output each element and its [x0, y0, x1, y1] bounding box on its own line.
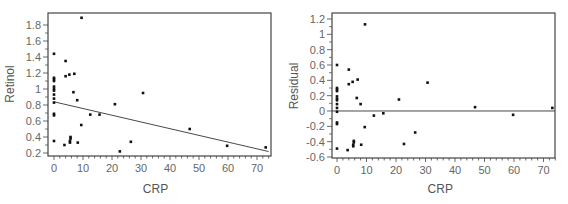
data-point	[69, 136, 72, 139]
x-tick-label: 40	[449, 164, 461, 176]
data-point	[336, 107, 339, 110]
data-point	[64, 75, 67, 78]
data-point	[73, 73, 76, 76]
x-tick-label: 50	[478, 164, 490, 176]
plot-frame	[332, 13, 555, 158]
data-point	[53, 89, 56, 92]
data-point	[76, 141, 79, 144]
y-tick-label: 0.6	[26, 115, 41, 127]
data-point	[356, 78, 359, 81]
y-tick-label: 1.6	[26, 35, 41, 47]
y-tick-label: 1.4	[26, 51, 41, 63]
data-point	[53, 140, 56, 143]
y-tick-label: 1	[319, 28, 325, 40]
data-point	[53, 97, 56, 100]
data-point	[72, 91, 75, 94]
x-tick-label: 60	[508, 164, 520, 176]
x-tick-label: 10	[360, 164, 372, 176]
data-point	[80, 124, 83, 127]
x-tick-label: 40	[164, 162, 176, 174]
x-tick-label: 30	[419, 164, 431, 176]
data-point	[551, 107, 554, 110]
data-point	[69, 140, 72, 143]
data-point	[414, 131, 417, 134]
data-point	[119, 150, 122, 153]
data-point	[398, 98, 401, 101]
data-point	[352, 143, 355, 146]
x-tick-label: 60	[222, 162, 234, 174]
y-tick-label: 1	[35, 83, 41, 95]
data-point	[336, 110, 339, 113]
data-point	[68, 73, 71, 76]
data-point	[346, 149, 349, 152]
data-point	[348, 68, 351, 71]
x-tick-label: 0	[51, 162, 57, 174]
data-point	[98, 113, 101, 116]
x-axis-title: CRP	[143, 182, 168, 196]
y-tick-label: 1.8	[26, 19, 41, 31]
y-tick-label: 1.2	[310, 13, 325, 25]
y-axis-title: Retinol	[3, 65, 17, 102]
y-tick-label: 0.2	[26, 147, 41, 159]
residual-vs-crp-scatter: 010203040506070-0.6-0.4-0.200.20.40.60.8…	[287, 13, 555, 196]
data-point	[426, 81, 429, 84]
data-point	[363, 126, 366, 129]
x-tick-label: 10	[77, 162, 89, 174]
regression-line	[54, 102, 269, 152]
y-tick-label: 1.2	[26, 67, 41, 79]
data-point	[474, 106, 477, 109]
x-tick-label: 20	[390, 164, 402, 176]
data-point	[53, 93, 56, 96]
data-point	[403, 143, 406, 146]
data-point	[373, 114, 376, 117]
y-tick-label: 0.4	[26, 131, 41, 143]
data-point	[382, 112, 385, 115]
x-tick-label: 20	[106, 162, 118, 174]
x-tick-label: 70	[251, 162, 263, 174]
data-point	[63, 144, 66, 147]
y-tick-label: 0.4	[310, 74, 325, 86]
x-tick-label: 0	[334, 164, 340, 176]
data-point	[114, 103, 117, 106]
y-tick-label: 0	[319, 105, 325, 117]
data-point	[336, 103, 339, 106]
x-axis-title: CRP	[428, 182, 453, 196]
data-point	[336, 90, 339, 93]
data-point	[512, 114, 515, 117]
data-point	[89, 113, 92, 116]
y-tick-label: -0.4	[306, 136, 325, 148]
data-point	[348, 83, 351, 86]
x-tick-label: 30	[135, 162, 147, 174]
data-point	[76, 99, 79, 102]
y-tick-label: -0.2	[306, 120, 325, 132]
data-point	[355, 97, 358, 100]
data-point	[130, 141, 133, 144]
data-point	[64, 60, 67, 63]
y-tick-label: 0.2	[310, 90, 325, 102]
data-point	[336, 147, 339, 150]
y-tick-label: 0.8	[310, 44, 325, 56]
data-point	[336, 64, 339, 67]
data-point	[53, 101, 56, 104]
data-point	[336, 99, 339, 102]
data-point	[226, 145, 229, 148]
data-point	[53, 114, 56, 117]
y-axis-title: Residual	[287, 63, 301, 110]
data-point	[80, 17, 83, 20]
data-point	[53, 53, 56, 56]
y-tick-label: 0.8	[26, 99, 41, 111]
x-tick-label: 70	[537, 164, 549, 176]
y-tick-label: 0.6	[310, 59, 325, 71]
data-point	[53, 85, 56, 88]
retinol-vs-crp-scatter: 0102030405060700.20.40.60.811.21.41.61.8…	[3, 13, 271, 196]
charts-canvas: 0102030405060700.20.40.60.811.21.41.61.8…	[0, 0, 568, 204]
y-tick-label: -0.6	[306, 151, 325, 163]
data-point	[359, 103, 362, 106]
data-point	[353, 140, 356, 143]
data-point	[142, 92, 145, 95]
data-point	[264, 146, 267, 149]
plot-frame	[48, 13, 271, 156]
x-tick-label: 50	[193, 162, 205, 174]
data-point	[188, 128, 191, 131]
data-point	[360, 143, 363, 146]
